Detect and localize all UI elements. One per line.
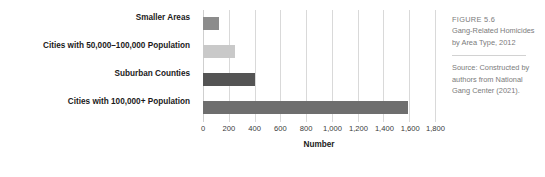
- value-axis-tick-labels: 0 200 400 600 800 1,000 1,200 1,400 1,60…: [203, 124, 435, 138]
- tick-label-200: 200: [222, 124, 235, 133]
- tick-label-600: 600: [274, 124, 287, 133]
- category-label-cities-100k-plus: Cities with 100,000+ Population: [0, 97, 190, 107]
- caption-divider: [452, 55, 526, 56]
- category-label-suburban-counties: Suburban Counties: [0, 69, 190, 79]
- bar-smaller-areas[interactable]: [203, 17, 219, 30]
- tick-label-1000: 1,000: [323, 124, 342, 133]
- category-axis-labels: Smaller Areas Cities with 50,000–100,000…: [0, 10, 196, 122]
- bar-lane-smaller-areas: [203, 10, 435, 38]
- bar-chart: Smaller Areas Cities with 50,000–100,000…: [0, 0, 440, 177]
- tick-label-800: 800: [300, 124, 313, 133]
- bar-cities-100k-plus[interactable]: [203, 101, 408, 114]
- figure-title-text: Gang-Related Homicides by Area Type, 201…: [452, 25, 542, 48]
- figure-source-text: Source: Constructed by authors from Nati…: [452, 62, 542, 96]
- figure-number-label: FIGURE 5.6: [452, 14, 542, 25]
- bar-cities-50k-100k[interactable]: [203, 45, 235, 58]
- gridline-1800: [435, 10, 436, 122]
- bar-lane-suburban-counties: [203, 66, 435, 94]
- figure-caption: FIGURE 5.6 Gang-Related Homicides by Are…: [452, 14, 542, 96]
- tick-label-1200: 1,200: [349, 124, 368, 133]
- bar-lane-cities-50k-100k: [203, 38, 435, 66]
- plot-area: [203, 10, 435, 122]
- tick-label-1800: 1,800: [426, 124, 445, 133]
- figure-container: Smaller Areas Cities with 50,000–100,000…: [0, 0, 545, 177]
- category-label-cities-50k-100k: Cities with 50,000–100,000 Population: [0, 41, 190, 51]
- bar-lane-cities-100k-plus: [203, 94, 435, 122]
- category-label-smaller-areas: Smaller Areas: [0, 13, 190, 23]
- bar-suburban-counties[interactable]: [203, 73, 255, 86]
- tick-label-1600: 1,600: [401, 124, 420, 133]
- tick-label-0: 0: [201, 124, 205, 133]
- tick-label-1400: 1,400: [375, 124, 394, 133]
- x-axis-title: Number: [203, 140, 435, 149]
- tick-label-400: 400: [248, 124, 261, 133]
